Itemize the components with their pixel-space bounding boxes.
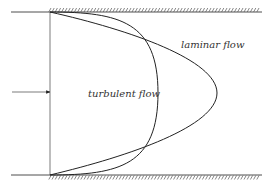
hatch-mark [116,176,118,180]
hatch-mark [225,176,227,180]
hatch-mark [180,176,182,180]
hatch-mark [55,176,57,180]
hatch-mark [222,8,224,12]
hatch-mark [110,8,112,12]
hatch-mark [62,8,64,12]
hatch-mark [148,8,150,12]
hatch-mark [225,8,227,12]
hatch-mark [158,176,160,180]
hatch-mark [212,8,214,12]
hatch-mark [244,8,246,12]
hatch-mark [135,176,137,180]
turbulent-flow-label: turbulent flow [88,88,161,99]
hatch-mark [231,176,233,180]
hatch-mark [119,176,121,180]
hatch-mark [52,176,54,180]
hatch-mark [74,176,76,180]
hatch-mark [164,8,166,12]
hatch-mark [170,8,172,12]
hatch-mark [241,176,243,180]
hatch-mark [138,8,140,12]
hatch-mark [97,176,99,180]
hatch-mark [174,176,176,180]
hatch-mark [190,176,192,180]
hatch-mark [244,176,246,180]
hatch-mark [161,176,163,180]
hatch-mark [145,8,147,12]
hatch-mark [254,176,256,180]
hatch-mark [206,8,208,12]
hatch-mark [90,176,92,180]
hatch-mark [81,8,83,12]
hatch-mark [196,176,198,180]
hatch-mark [183,176,185,180]
hatch-mark [154,176,156,180]
flow-profile-diagram: laminar flow turbulent flow [0,0,266,189]
hatch-mark [142,176,144,180]
top-wall-hatching [49,8,259,12]
hatch-mark [209,8,211,12]
hatch-mark [154,8,156,12]
hatch-mark [238,8,240,12]
hatch-mark [151,176,153,180]
hatch-mark [183,8,185,12]
hatch-mark [167,8,169,12]
hatch-mark [170,176,172,180]
hatch-mark [222,176,224,180]
hatch-mark [177,176,179,180]
hatch-mark [257,176,259,180]
hatch-mark [228,8,230,12]
hatch-mark [164,176,166,180]
hatch-mark [254,8,256,12]
hatch-mark [49,8,51,12]
hatch-mark [74,8,76,12]
hatch-mark [142,8,144,12]
hatch-mark [106,8,108,12]
hatch-mark [132,8,134,12]
hatch-mark [97,8,99,12]
hatch-mark [186,8,188,12]
hatch-mark [180,8,182,12]
hatch-mark [100,8,102,12]
hatch-mark [71,176,73,180]
hatch-mark [190,8,192,12]
hatch-mark [234,176,236,180]
hatch-mark [177,8,179,12]
hatch-mark [148,176,150,180]
hatch-mark [151,8,153,12]
hatch-mark [65,176,67,180]
hatch-mark [161,8,163,12]
hatch-mark [145,176,147,180]
hatch-mark [84,8,86,12]
hatch-mark [129,176,131,180]
hatch-mark [84,176,86,180]
hatch-mark [116,8,118,12]
hatch-mark [81,176,83,180]
hatch-mark [212,176,214,180]
hatch-mark [234,8,236,12]
hatch-mark [49,176,51,180]
hatch-mark [113,8,115,12]
hatch-mark [250,176,252,180]
hatch-mark [241,8,243,12]
hatch-mark [206,176,208,180]
hatch-mark [58,8,60,12]
hatch-mark [90,8,92,12]
hatch-mark [68,8,70,12]
hatch-mark [87,176,89,180]
hatch-mark [202,8,204,12]
hatch-mark [122,176,124,180]
hatch-mark [103,176,105,180]
hatch-mark [209,176,211,180]
hatch-mark [129,8,131,12]
hatch-mark [199,8,201,12]
hatch-mark [186,176,188,180]
hatch-mark [58,176,60,180]
hatch-mark [167,176,169,180]
hatch-mark [94,8,96,12]
hatch-mark [52,8,54,12]
hatch-mark [62,176,64,180]
hatch-mark [228,176,230,180]
hatch-mark [55,8,57,12]
hatch-mark [138,176,140,180]
